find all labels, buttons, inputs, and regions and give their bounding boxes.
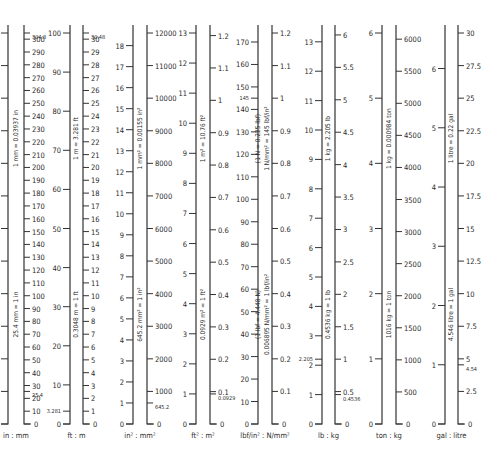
right-tick-label: 4500 xyxy=(404,131,421,140)
right-tick-label: 10 xyxy=(466,290,475,299)
scale-gal-litre: 012345602.557.51012.51517.52022.52527.53… xyxy=(432,25,481,440)
left-tick-label: 2 xyxy=(183,360,187,369)
right-tick-label: 0 xyxy=(406,420,410,429)
left-tick-label: 9 xyxy=(120,231,124,240)
right-tick-label: 2500 xyxy=(404,260,421,269)
left-tick-label: 110 xyxy=(236,173,249,182)
left-tick-label: 2 xyxy=(120,378,124,387)
right-tick-label: 19 xyxy=(91,176,100,185)
conversion-annotation: 1 mm = 0.03937 in xyxy=(12,110,20,167)
left-tick-label: 18 xyxy=(115,42,124,51)
right-tick-label: 5 xyxy=(91,356,95,365)
left-tick-label: 20 xyxy=(240,375,249,384)
right-tick-label: 210 xyxy=(32,151,45,160)
left-tick-label: 1 xyxy=(309,391,313,400)
right-tick-label: 0 xyxy=(468,420,472,429)
right-tick-label: 0.6 xyxy=(280,225,291,234)
right-extra-label: 0.0929 xyxy=(218,395,235,401)
right-tick-label: 2 xyxy=(91,394,95,403)
conversion-annotation: 1 kg = 0.000984 ton xyxy=(385,108,393,169)
right-tick-label: 7.5 xyxy=(466,322,477,331)
left-tick-label: 0 xyxy=(120,420,124,429)
left-tick-label: 7 xyxy=(120,273,124,282)
conversion-annotation: 1 m² = 10.76 ft² xyxy=(199,115,207,162)
left-axis-line xyxy=(375,25,382,424)
right-tick-label: 29 xyxy=(91,48,100,57)
right-tick-label: 140 xyxy=(32,240,45,249)
right-tick-label: 27.5 xyxy=(466,62,481,71)
right-tick-label: 1.2 xyxy=(280,29,291,38)
left-tick-label: 20 xyxy=(52,342,61,351)
right-tick-label: 500 xyxy=(404,388,417,397)
left-tick-label: 12 xyxy=(304,67,313,76)
right-tick-label: 100 xyxy=(32,292,45,301)
scale-caption: ton : kg xyxy=(376,431,402,440)
right-tick-label: 250 xyxy=(32,99,45,108)
right-extra-label: 4.54 xyxy=(466,366,477,372)
left-tick-label: 3 xyxy=(369,225,373,234)
right-extra-label: 304.8 xyxy=(32,34,46,40)
right-tick-label: 6 xyxy=(343,31,347,40)
right-tick-label: 10 xyxy=(32,407,41,416)
left-axis-line xyxy=(315,25,322,424)
right-tick-label: 0 xyxy=(34,420,38,429)
right-tick-label: 0.6 xyxy=(218,226,229,235)
left-tick-label: 6 xyxy=(309,244,313,253)
left-tick-label: 3 xyxy=(120,357,124,366)
right-tick-label: 8000 xyxy=(155,159,172,168)
conversion-annotation: 1 litre = 0.22 gal xyxy=(448,114,456,164)
right-axis-line xyxy=(24,25,31,424)
right-tick-label: 0.4 xyxy=(280,290,291,299)
left-tick-label: 1 xyxy=(120,399,124,408)
right-tick-label: 2000 xyxy=(404,292,421,301)
right-extra-label: 25.4 xyxy=(32,392,43,398)
right-tick-label: 13 xyxy=(91,253,100,262)
left-tick-label: 10 xyxy=(240,398,249,407)
right-tick-label: 80 xyxy=(32,317,41,326)
right-tick-label: 7 xyxy=(91,330,95,339)
right-tick-label: 0.9 xyxy=(218,129,229,138)
right-tick-label: 270 xyxy=(32,74,45,83)
left-tick-label: 40 xyxy=(240,330,249,339)
left-tick-label: 8 xyxy=(120,252,124,261)
right-tick-label: 7000 xyxy=(155,192,172,201)
right-tick-label: 30 xyxy=(32,382,41,391)
right-tick-label: 6000 xyxy=(404,35,421,44)
right-tick-label: 60 xyxy=(32,343,41,352)
left-tick-label: 90 xyxy=(240,218,249,227)
left-tick-label: 2 xyxy=(369,290,373,299)
left-tick-label: 90 xyxy=(52,68,61,77)
left-tick-label: 50 xyxy=(52,225,61,234)
left-tick-label: 13 xyxy=(115,147,124,156)
right-tick-label: 5500 xyxy=(404,67,421,76)
right-tick-label: 0 xyxy=(93,420,97,429)
scale-ft-m: 01020304050607080901003.2810123456789101… xyxy=(47,25,105,440)
right-tick-label: 0.5 xyxy=(280,257,291,266)
right-tick-label: 0 xyxy=(345,420,349,429)
right-axis-line xyxy=(335,25,342,424)
left-tick-label: 70 xyxy=(240,263,249,272)
right-tick-label: 120 xyxy=(32,266,45,275)
left-tick-label: 13 xyxy=(304,38,313,47)
right-tick-label: 90 xyxy=(32,305,41,314)
right-tick-label: 4000 xyxy=(155,290,172,299)
left-tick-label: 4 xyxy=(183,300,187,309)
right-tick-label: 1 xyxy=(280,94,284,103)
right-tick-label: 1.1 xyxy=(218,64,229,73)
right-tick-label: 4 xyxy=(343,161,347,170)
right-tick-label: 25 xyxy=(91,99,100,108)
right-tick-label: 10000 xyxy=(155,94,176,103)
left-tick-label: 150 xyxy=(236,83,249,92)
scale-caption: gal : litre xyxy=(436,431,466,440)
left-tick-label: 4 xyxy=(309,302,313,311)
left-tick-label: 0 xyxy=(245,420,249,429)
left-tick-label: 10 xyxy=(115,210,124,219)
right-tick-label: 15 xyxy=(91,228,100,237)
conversion-annotation: 0.0929 m² = 1 ft² xyxy=(199,289,207,340)
left-tick-label: 50 xyxy=(240,308,249,317)
left-tick-label: 4 xyxy=(369,159,373,168)
conversion-annotation: 0.006895 N/mm² = 1 lbf/in² xyxy=(263,274,271,355)
right-tick-label: 25 xyxy=(466,94,475,103)
right-tick-label: 0.2 xyxy=(218,355,229,364)
left-tick-label: 9 xyxy=(309,155,313,164)
